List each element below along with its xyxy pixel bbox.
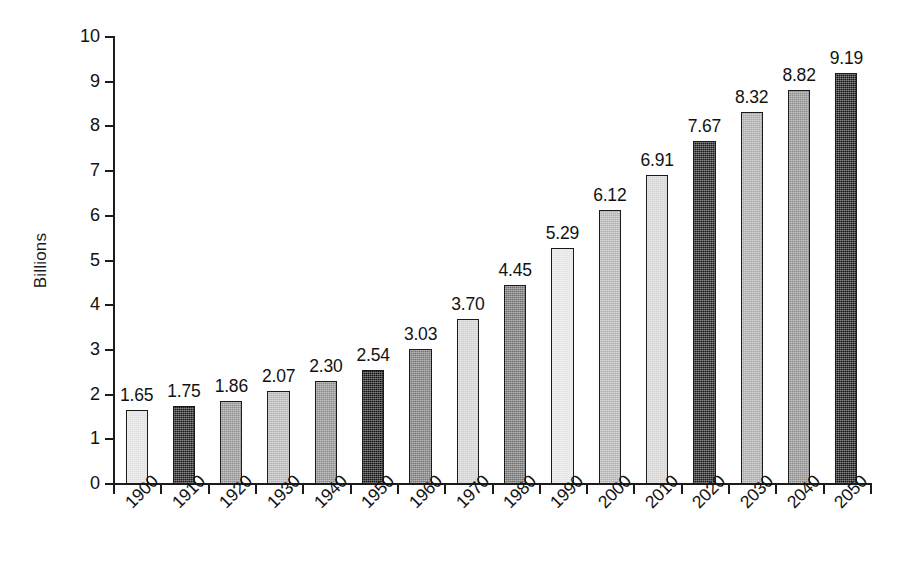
bar-fill-pattern bbox=[505, 286, 525, 483]
bar[interactable] bbox=[315, 381, 337, 484]
x-axis-tick bbox=[113, 485, 115, 494]
bar-fill-pattern bbox=[742, 113, 762, 483]
bar-fill-pattern bbox=[458, 320, 478, 483]
bar[interactable] bbox=[646, 175, 668, 484]
y-axis-tick bbox=[105, 125, 113, 127]
y-axis-tick-label: 5 bbox=[70, 250, 100, 271]
y-axis-title: Billions bbox=[30, 37, 52, 484]
bar-value-label: 8.32 bbox=[735, 87, 768, 108]
bar[interactable] bbox=[693, 141, 715, 484]
bar-fill-pattern bbox=[174, 407, 194, 483]
bar-value-label: 1.86 bbox=[215, 376, 248, 397]
bar[interactable] bbox=[835, 73, 857, 484]
y-axis-tick bbox=[105, 260, 113, 262]
bar-value-label: 4.45 bbox=[499, 260, 532, 281]
bar[interactable] bbox=[741, 112, 763, 484]
y-axis-tick bbox=[105, 438, 113, 440]
bar-fill-pattern bbox=[363, 371, 383, 483]
y-axis-tick-label: 2 bbox=[70, 384, 100, 405]
bar-fill-pattern bbox=[316, 382, 336, 483]
y-axis-tick bbox=[105, 36, 113, 38]
y-axis-tick-label: 7 bbox=[70, 160, 100, 181]
bar[interactable] bbox=[599, 210, 621, 484]
bar-value-label: 1.75 bbox=[167, 381, 200, 402]
y-axis-tick-label: 0 bbox=[70, 473, 100, 494]
bar[interactable] bbox=[551, 248, 573, 484]
bar[interactable] bbox=[409, 349, 431, 484]
bar-chart: Billions 012345678910 1.651.751.862.072.… bbox=[0, 0, 914, 573]
y-axis-tick-label: 10 bbox=[70, 26, 100, 47]
bar-value-label: 9.19 bbox=[830, 48, 863, 69]
bar-fill-pattern bbox=[410, 350, 430, 483]
bar[interactable] bbox=[220, 401, 242, 484]
y-axis-tick bbox=[105, 215, 113, 217]
y-axis-tick bbox=[105, 483, 113, 485]
y-axis-tick bbox=[105, 394, 113, 396]
y-axis-tick-label: 8 bbox=[70, 115, 100, 136]
y-axis-tick bbox=[105, 304, 113, 306]
y-axis-tick bbox=[105, 81, 113, 83]
bar-value-label: 2.54 bbox=[357, 345, 390, 366]
y-axis-tick-label: 4 bbox=[70, 294, 100, 315]
bar-value-label: 3.70 bbox=[451, 294, 484, 315]
bar-fill-pattern bbox=[694, 142, 714, 483]
bar-value-label: 5.29 bbox=[546, 223, 579, 244]
y-axis-tick bbox=[105, 170, 113, 172]
y-axis-tick-label: 1 bbox=[70, 428, 100, 449]
y-axis-tick-label: 3 bbox=[70, 339, 100, 360]
y-axis-tick-label: 9 bbox=[70, 71, 100, 92]
bar-value-label: 2.30 bbox=[309, 356, 342, 377]
bar[interactable] bbox=[504, 285, 526, 484]
bar-fill-pattern bbox=[647, 176, 667, 483]
bar-value-label: 2.07 bbox=[262, 366, 295, 387]
bar[interactable] bbox=[267, 391, 289, 484]
bar[interactable] bbox=[457, 319, 479, 484]
bar-fill-pattern bbox=[268, 392, 288, 483]
bar-value-label: 8.82 bbox=[782, 65, 815, 86]
y-axis-tick bbox=[105, 349, 113, 351]
bar-value-label: 6.12 bbox=[593, 185, 626, 206]
bar-fill-pattern bbox=[600, 211, 620, 483]
bar-fill-pattern bbox=[127, 411, 147, 483]
bar-value-label: 1.65 bbox=[120, 385, 153, 406]
y-axis-tick-label: 6 bbox=[70, 205, 100, 226]
bar-fill-pattern bbox=[552, 249, 572, 483]
bar-value-label: 3.03 bbox=[404, 324, 437, 345]
bar[interactable] bbox=[788, 90, 810, 484]
bar-fill-pattern bbox=[836, 74, 856, 483]
bar[interactable] bbox=[173, 406, 195, 484]
bar-value-label: 6.91 bbox=[640, 150, 673, 171]
bar[interactable] bbox=[362, 370, 384, 484]
bar-fill-pattern bbox=[221, 402, 241, 483]
bar-fill-pattern bbox=[789, 91, 809, 483]
bar-value-label: 7.67 bbox=[688, 116, 721, 137]
